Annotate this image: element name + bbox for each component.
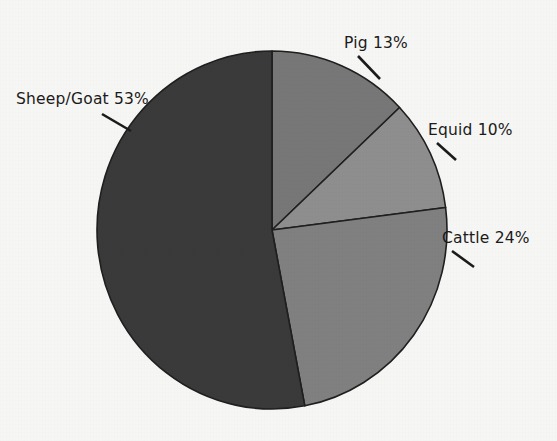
pie-slices-group <box>97 51 447 409</box>
pie-label-pig: Pig 13% <box>344 34 408 52</box>
pie-label-cattle: Cattle 24% <box>442 229 530 247</box>
pie-label-sheep-goat: Sheep/Goat 53% <box>16 90 149 108</box>
pie-label-equid: Equid 10% <box>428 121 513 139</box>
pie-chart-figure: Pig 13% Equid 10% Cattle 24% Sheep/Goat … <box>0 0 557 441</box>
